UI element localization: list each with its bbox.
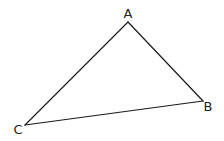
edge-c-a [25,22,128,125]
triangle-diagram: A B C [0,0,224,141]
edge-b-c [25,101,203,125]
vertex-label-b: B [204,99,213,114]
vertex-labels: A B C [13,6,212,137]
vertex-label-a: A [124,6,133,21]
edge-a-b [128,22,203,101]
vertex-label-c: C [13,122,22,137]
triangle-edges [25,22,203,125]
